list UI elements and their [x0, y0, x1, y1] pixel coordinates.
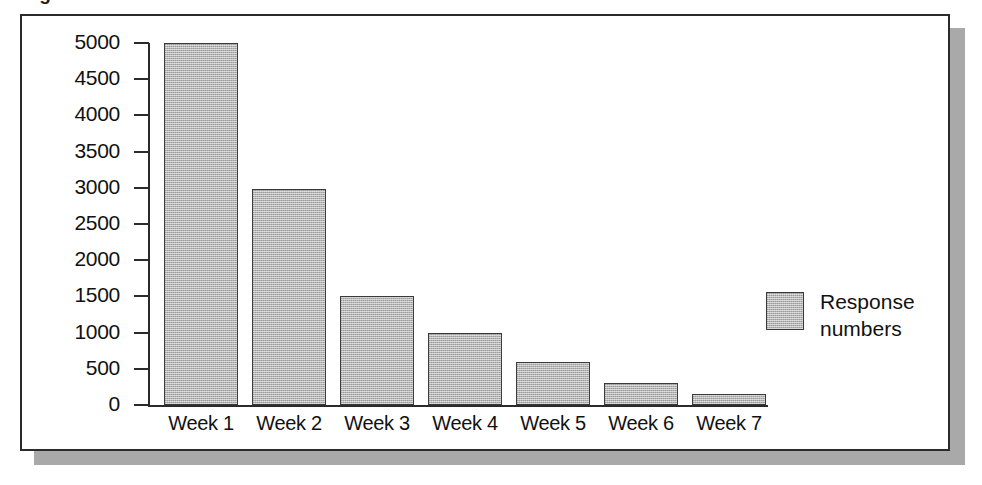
y-tick-label: 1500 — [74, 283, 120, 307]
y-tick-label: 500 — [86, 356, 120, 380]
bar-week-7[interactable] — [692, 394, 766, 405]
bar-slot — [692, 43, 766, 405]
x-label-week-5: Week 5 — [508, 412, 598, 435]
bar-week-5[interactable] — [516, 362, 590, 405]
chart-legend: Response numbers — [766, 292, 950, 342]
bar-chart: 5000450040003500300025002000150010005000… — [22, 16, 952, 453]
y-tick-label: 4000 — [74, 102, 120, 126]
x-label-week-6: Week 6 — [596, 412, 686, 435]
y-tick-mark — [134, 223, 149, 225]
figure-title-strip: Figure — [0, 0, 982, 14]
y-tick-mark — [134, 78, 149, 80]
legend-label-line2: numbers — [820, 315, 950, 342]
bar-slot — [252, 43, 326, 405]
legend-swatch-response-numbers — [766, 292, 804, 330]
legend-label-response-numbers: Response numbers — [820, 288, 950, 342]
y-tick-mark — [134, 114, 149, 116]
y-tick-label: 4500 — [74, 66, 120, 90]
bar-week-1[interactable] — [164, 43, 238, 405]
figure-frame: 5000450040003500300025002000150010005000… — [20, 14, 950, 451]
y-tick-label: 3500 — [74, 139, 120, 163]
x-label-week-7: Week 7 — [684, 412, 774, 435]
bar-slot — [428, 43, 502, 405]
bar-week-6[interactable] — [604, 383, 678, 405]
y-tick-mark — [134, 368, 149, 370]
x-label-week-4: Week 4 — [420, 412, 510, 435]
bar-week-4[interactable] — [428, 333, 502, 405]
y-tick-mark — [134, 42, 149, 44]
bar-week-3[interactable] — [340, 296, 414, 405]
bar-week-2[interactable] — [252, 189, 326, 405]
y-tick-label: 5000 — [74, 30, 120, 54]
x-axis-line — [148, 405, 768, 407]
x-label-week-2: Week 2 — [244, 412, 334, 435]
y-tick-mark — [134, 151, 149, 153]
y-tick-mark — [134, 404, 149, 406]
y-tick-label: 2500 — [74, 211, 120, 235]
bar-slot — [340, 43, 414, 405]
bar-group — [150, 43, 768, 405]
bar-slot — [164, 43, 238, 405]
y-tick-label: 3000 — [74, 175, 120, 199]
y-tick-mark — [134, 332, 149, 334]
y-tick-label: 1000 — [74, 320, 120, 344]
x-label-week-3: Week 3 — [332, 412, 422, 435]
y-tick-mark — [134, 187, 149, 189]
y-tick-mark — [134, 259, 149, 261]
x-label-week-1: Week 1 — [156, 412, 246, 435]
y-tick-label: 0 — [109, 392, 120, 416]
y-tick-label: 2000 — [74, 247, 120, 271]
bar-slot — [516, 43, 590, 405]
bar-slot — [604, 43, 678, 405]
y-tick-mark — [134, 295, 149, 297]
legend-label-line1: Response — [820, 288, 950, 315]
page-title: Figure — [22, 0, 81, 5]
